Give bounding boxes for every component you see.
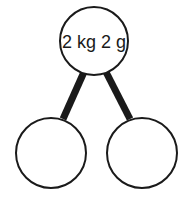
connector-left [63,72,84,119]
number-bond-diagram: 2 kg 2 g [0,0,188,200]
part-circle-right [107,118,177,188]
connector-right [106,72,130,119]
part-circle-left [16,118,86,188]
whole-label: 2 kg 2 g [62,32,126,52]
